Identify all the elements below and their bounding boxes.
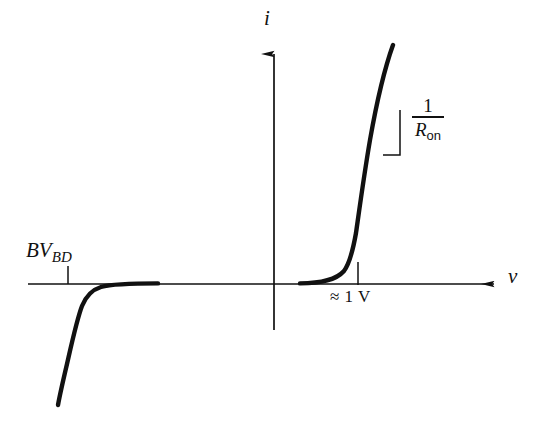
diode-iv-characteristic-figure: i v BVBD ≈ 1 V 1 Ron <box>0 0 551 442</box>
slope-triangle <box>383 110 400 155</box>
forward-conduction-curve <box>300 45 393 283</box>
resistance-subscript: on <box>427 127 441 142</box>
resistance-symbol: R <box>415 119 427 140</box>
current-axis-label: i <box>264 8 270 29</box>
turn-on-voltage-label: ≈ 1 V <box>330 288 371 305</box>
breakdown-voltage-label: BVBD <box>26 240 72 265</box>
slope-numerator: 1 <box>412 96 444 116</box>
slope-label: 1 Ron <box>412 96 444 141</box>
voltage-axis-label: v <box>508 266 517 287</box>
slope-denominator: Ron <box>412 118 444 142</box>
breakdown-voltage-subscript: BD <box>52 249 72 265</box>
plot-canvas <box>0 0 551 442</box>
breakdown-voltage-symbol: BV <box>26 238 52 262</box>
reverse-breakdown-curve <box>58 283 158 405</box>
